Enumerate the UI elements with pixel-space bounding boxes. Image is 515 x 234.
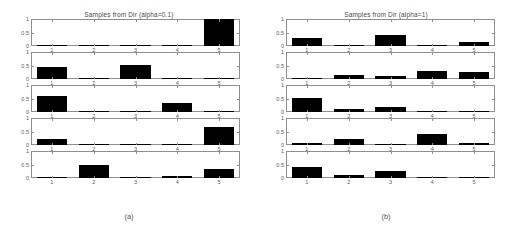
x-tick-mark xyxy=(474,52,475,55)
y-tick-mark xyxy=(31,144,34,145)
x-tick-mark xyxy=(136,151,137,154)
y-tick-label: 0.5 xyxy=(276,129,284,135)
x-tick-mark xyxy=(219,110,220,113)
x-tick-label: 4 xyxy=(176,179,179,185)
y-tick-mark xyxy=(237,144,240,145)
x-tick-mark xyxy=(391,151,392,154)
y-tick-mark xyxy=(31,99,34,100)
y-tick-label: 1 xyxy=(281,49,284,55)
y-tick-mark xyxy=(237,151,240,152)
x-tick-mark xyxy=(474,143,475,146)
y-tick-mark xyxy=(237,66,240,67)
x-tick-label: 2 xyxy=(347,179,350,185)
y-tick-label: 1 xyxy=(281,148,284,154)
plot-area xyxy=(286,118,495,145)
x-tick-mark xyxy=(136,44,137,47)
subplot-b-1: 00.5112345 xyxy=(286,19,495,46)
x-tick-mark xyxy=(52,110,53,113)
y-tick-mark xyxy=(31,118,34,119)
x-tick-mark xyxy=(94,118,95,121)
x-tick-mark xyxy=(177,85,178,88)
subplot-b-5: 00.5112345 xyxy=(286,151,495,178)
x-tick-mark xyxy=(52,143,53,146)
y-tick-mark xyxy=(31,151,34,152)
y-tick-label: 0.5 xyxy=(21,63,29,69)
y-tick-mark xyxy=(286,165,289,166)
y-tick-mark xyxy=(237,33,240,34)
subplot-b-3: 00.5112345 xyxy=(286,85,495,112)
x-tick-mark xyxy=(349,110,350,113)
y-tick-label: 0.5 xyxy=(21,96,29,102)
x-tick-mark xyxy=(349,77,350,80)
x-tick-mark xyxy=(432,151,433,154)
panel-b-title: Samples from Dir (alpha=1) xyxy=(257,11,515,18)
x-tick-mark xyxy=(391,19,392,22)
y-tick-mark xyxy=(492,33,495,34)
y-tick-label: 0.5 xyxy=(21,162,29,168)
subplot-a-2: 00.5112345 xyxy=(31,52,240,79)
bar xyxy=(204,19,234,46)
x-tick-mark xyxy=(432,52,433,55)
x-tick-mark xyxy=(94,77,95,80)
x-tick-mark xyxy=(307,19,308,22)
y-tick-mark xyxy=(286,118,289,119)
x-tick-mark xyxy=(432,44,433,47)
x-tick-label: 4 xyxy=(431,179,434,185)
y-tick-mark xyxy=(492,78,495,79)
x-tick-label: 3 xyxy=(389,179,392,185)
x-tick-label: 1 xyxy=(50,179,53,185)
x-tick-mark xyxy=(52,77,53,80)
y-tick-mark xyxy=(31,132,34,133)
y-tick-mark xyxy=(286,78,289,79)
y-tick-label: 0.5 xyxy=(276,162,284,168)
x-tick-mark xyxy=(94,110,95,113)
x-tick-mark xyxy=(474,44,475,47)
x-tick-mark xyxy=(349,19,350,22)
x-tick-mark xyxy=(307,118,308,121)
x-tick-mark xyxy=(391,110,392,113)
y-tick-label: 0 xyxy=(281,175,284,181)
x-tick-mark xyxy=(136,19,137,22)
y-tick-mark xyxy=(237,85,240,86)
x-tick-mark xyxy=(307,77,308,80)
x-tick-mark xyxy=(474,176,475,179)
x-tick-mark xyxy=(52,176,53,179)
y-tick-mark xyxy=(31,33,34,34)
y-tick-mark xyxy=(286,151,289,152)
plot-area xyxy=(31,19,240,46)
y-tick-mark xyxy=(31,177,34,178)
y-tick-mark xyxy=(492,52,495,53)
x-tick-mark xyxy=(94,151,95,154)
y-tick-label: 0.5 xyxy=(21,129,29,135)
figure-dirichlet-samples: Samples from Dir (alpha=0.1) (a) Samples… xyxy=(0,0,515,234)
x-tick-mark xyxy=(219,176,220,179)
y-tick-mark xyxy=(237,45,240,46)
plot-area xyxy=(31,151,240,178)
x-tick-mark xyxy=(432,85,433,88)
x-tick-mark xyxy=(94,52,95,55)
x-tick-mark xyxy=(219,143,220,146)
x-tick-mark xyxy=(432,19,433,22)
x-tick-mark xyxy=(349,85,350,88)
y-tick-mark xyxy=(492,144,495,145)
y-tick-label: 0 xyxy=(26,175,29,181)
y-tick-mark xyxy=(286,132,289,133)
plot-area xyxy=(31,118,240,145)
y-tick-mark xyxy=(31,85,34,86)
x-tick-mark xyxy=(52,19,53,22)
x-tick-mark xyxy=(391,143,392,146)
x-tick-mark xyxy=(94,44,95,47)
x-tick-mark xyxy=(136,110,137,113)
x-tick-mark xyxy=(219,19,220,22)
x-tick-mark xyxy=(219,52,220,55)
plot-area xyxy=(31,85,240,112)
y-tick-mark xyxy=(492,66,495,67)
y-tick-mark xyxy=(31,45,34,46)
y-tick-label: 0.5 xyxy=(276,30,284,36)
x-tick-mark xyxy=(177,52,178,55)
x-tick-mark xyxy=(391,44,392,47)
x-tick-mark xyxy=(391,176,392,179)
x-tick-mark xyxy=(177,110,178,113)
y-tick-mark xyxy=(286,33,289,34)
plot-area xyxy=(31,52,240,79)
